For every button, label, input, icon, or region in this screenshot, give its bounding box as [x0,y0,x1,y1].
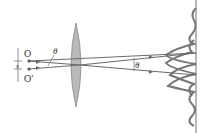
source-point-top [27,59,30,62]
source-point-bottom [27,67,30,70]
arrow-icon [36,66,40,70]
label-angle-right: θ [135,60,140,70]
label-angle-left: θ [53,46,58,56]
label-separation: s [16,62,19,70]
label-source-top: O [24,48,31,59]
label-source-bottom: O′ [24,73,33,84]
lens-resolution-diagram: O O′ s θ θ [0,0,211,133]
